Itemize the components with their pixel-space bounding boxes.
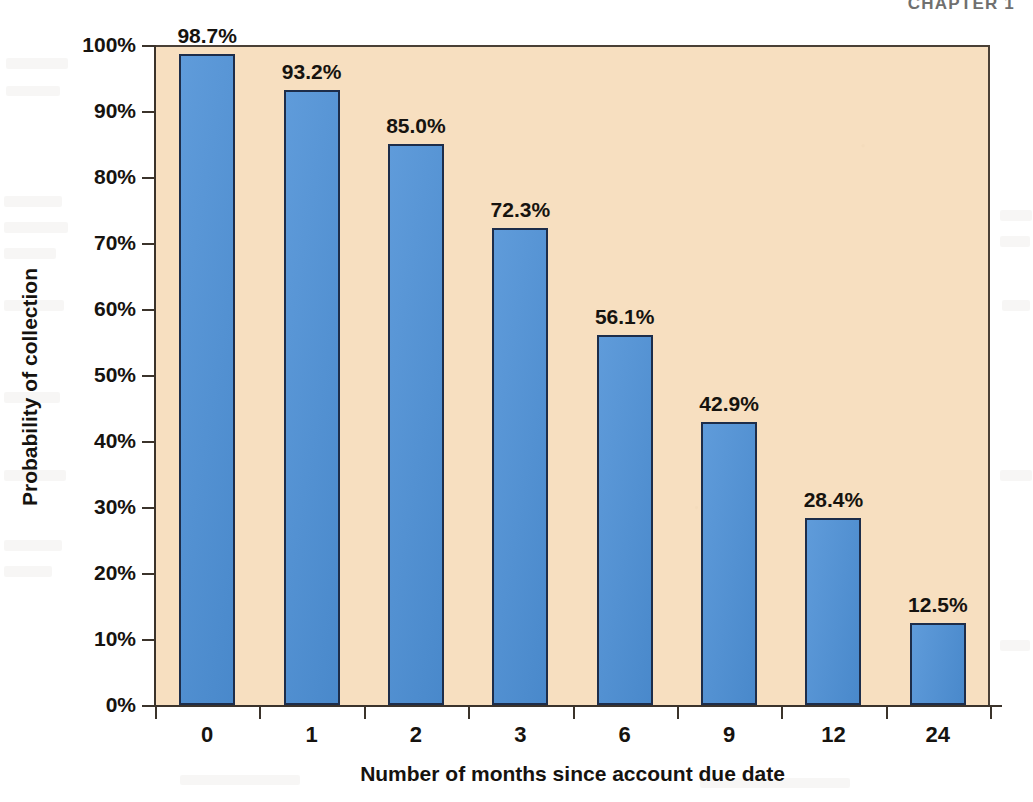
y-axis-label: 70% (56, 231, 136, 255)
y-axis-label: 10% (56, 627, 136, 651)
y-axis-tick (142, 375, 155, 377)
y-axis-label: 30% (56, 495, 136, 519)
x-axis-tick (677, 705, 679, 719)
bar (284, 90, 340, 705)
bar-shading (181, 56, 233, 703)
y-axis-label: 0% (56, 693, 136, 717)
bar-shading (390, 146, 442, 703)
x-axis-label: 3 (514, 722, 526, 748)
bar (701, 422, 757, 705)
bar-value-label: 56.1% (595, 305, 655, 329)
bars-layer (155, 47, 988, 705)
bar (910, 623, 966, 706)
y-axis-label: 50% (56, 363, 136, 387)
x-axis-tick (886, 705, 888, 719)
x-axis-tick (155, 705, 157, 719)
y-axis-tick (142, 111, 155, 113)
bar (388, 144, 444, 705)
bar-shading (807, 520, 859, 703)
bar (179, 54, 235, 705)
bar-value-label: 42.9% (699, 392, 759, 416)
y-axis-label: 90% (56, 99, 136, 123)
y-axis-tick (142, 573, 155, 575)
x-axis-label: 6 (619, 722, 631, 748)
y-axis-label: 40% (56, 429, 136, 453)
bar-value-label: 98.7% (177, 24, 237, 48)
x-axis-title: Number of months since account due date (155, 762, 990, 786)
bar-shading (912, 625, 964, 704)
bar-value-label: 85.0% (386, 114, 446, 138)
x-axis-label: 9 (723, 722, 735, 748)
x-axis-label: 0 (201, 722, 213, 748)
y-axis-label: 60% (56, 297, 136, 321)
bar (597, 335, 653, 705)
y-axis-tick (142, 177, 155, 179)
x-axis-tick (990, 705, 992, 719)
y-axis-tick (142, 243, 155, 245)
bar-value-label: 72.3% (491, 198, 551, 222)
x-axis-tick (573, 705, 575, 719)
y-axis-tick (142, 507, 155, 509)
y-axis-title: Probability of collection (18, 207, 42, 567)
x-axis-label: 24 (926, 722, 950, 748)
scanned-page: CHAPTER 1 0%10%20%30%40%50%60%70%80%90%1… (0, 0, 1033, 802)
plot-area (155, 45, 990, 705)
bar-shading (703, 424, 755, 703)
x-axis-label: 12 (821, 722, 845, 748)
x-axis-tick (468, 705, 470, 719)
bar-shading (286, 92, 338, 703)
y-axis-tick (142, 639, 155, 641)
x-axis-tick (259, 705, 261, 719)
bar-value-label: 93.2% (282, 60, 342, 84)
y-axis-tick (142, 45, 155, 47)
bar-value-label: 12.5% (908, 593, 968, 617)
bar-shading (494, 230, 546, 703)
bar-value-label: 28.4% (804, 488, 864, 512)
x-axis-label: 2 (410, 722, 422, 748)
y-axis-tick (142, 705, 155, 707)
y-axis-tick (142, 309, 155, 311)
x-axis-tick (364, 705, 366, 719)
bar-shading (599, 337, 651, 703)
bar (805, 518, 861, 705)
y-axis-label: 80% (56, 165, 136, 189)
y-axis-label: 20% (56, 561, 136, 585)
y-axis-tick (142, 441, 155, 443)
x-axis-tick (781, 705, 783, 719)
y-axis-label: 100% (56, 33, 136, 57)
bar-chart-figure: 0%10%20%30%40%50%60%70%80%90%100% Probab… (0, 0, 1033, 802)
x-axis-label: 1 (305, 722, 317, 748)
bar (492, 228, 548, 705)
